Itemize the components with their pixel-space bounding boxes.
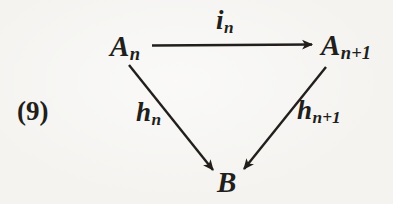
node-a-n-plus-1: An+1 (321, 31, 371, 63)
node-b-base: B (217, 166, 237, 198)
label-h-n: hn (136, 99, 161, 128)
node-a-n-base: A (110, 30, 130, 62)
commutative-diagram-figure: (9) An An+1 B in hn hn+1 (0, 0, 393, 204)
arrow-i-n (152, 45, 312, 46)
node-a-n-plus-1-base: A (321, 29, 341, 61)
node-a-n-subscript: n (130, 43, 140, 64)
label-h-n-plus-1: hn+1 (297, 97, 341, 126)
node-b: B (217, 168, 237, 197)
label-i-n-subscript: n (224, 18, 234, 37)
label-i-n: in (216, 7, 234, 36)
label-h-n-plus-1-subscript: n+1 (313, 108, 341, 127)
label-i-n-base: i (216, 5, 224, 35)
label-h-n-subscript: n (152, 110, 162, 129)
node-a-n-plus-1-subscript: n+1 (341, 42, 371, 63)
label-h-n-plus-1-base: h (297, 95, 313, 125)
node-a-n: An (110, 32, 140, 64)
label-h-n-base: h (136, 97, 152, 127)
